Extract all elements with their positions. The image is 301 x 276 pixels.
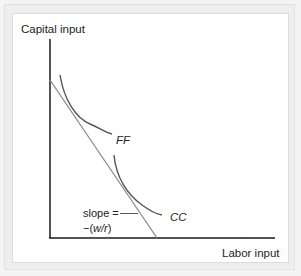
isoquant-ff-curve [60,75,112,134]
x-axis-label: Labor input [222,247,280,259]
ff-label: FF [116,134,131,146]
y-axis-label: Capital input [21,23,86,35]
isoquant-diagram: Capital input Labor input FF CC slope = … [0,0,301,276]
slope-suffix: ) [108,222,112,234]
slope-label-line2: −(w/r) [83,222,111,234]
slope-ratio: w/r [93,222,109,234]
cc-label: CC [170,211,187,223]
slope-label-line1: slope = [83,207,119,219]
slope-prefix: −( [83,222,93,234]
